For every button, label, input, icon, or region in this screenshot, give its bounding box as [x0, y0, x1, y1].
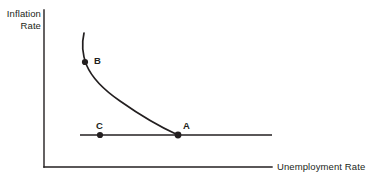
phillips-curve-figure: Inflation Rate Unemployment Rate B C A: [0, 0, 371, 180]
data-point-a-label: A: [183, 121, 190, 131]
data-point-a-marker: [175, 132, 182, 139]
x-axis-label: Unemployment Rate: [277, 161, 365, 173]
plot-area: [0, 0, 371, 180]
y-axis-label: Inflation Rate: [0, 8, 41, 31]
data-point-b-label: B: [94, 56, 101, 66]
data-point-c-marker: [97, 132, 103, 138]
data-point-b-marker: [82, 59, 88, 65]
data-point-c-label: C: [96, 121, 103, 131]
